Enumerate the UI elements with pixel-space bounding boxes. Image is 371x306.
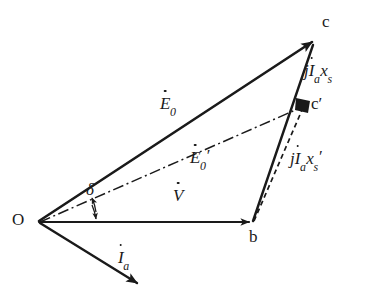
- vector-label-jIaXs: jIaxs: [304, 62, 333, 83]
- point-label-b: b: [249, 228, 258, 245]
- vector-label-V: V: [173, 187, 183, 204]
- phasor-dot-V: V: [173, 187, 183, 204]
- vector-label-Ia: Ia: [118, 249, 130, 270]
- vector-label-jIaXs-prime-xsub: s: [313, 160, 318, 174]
- vector-label-E0-prime: E0′: [190, 149, 210, 170]
- point-label-c: c: [322, 13, 330, 30]
- vector-label-E0-prime-sub: 0: [200, 159, 206, 173]
- vector-label-jIaXs-xsub: s: [327, 72, 332, 86]
- vector-label-Ia-sub: a: [123, 259, 129, 273]
- vector-label-E0-prime-base: E: [190, 148, 200, 167]
- phasor-dot-E0: E: [160, 95, 170, 112]
- point-label-c-prime: c′: [311, 95, 322, 112]
- vector-label-jIaXs-prime-sub: a: [300, 160, 306, 174]
- point-label-O: O: [12, 211, 24, 228]
- vector-label-E0-sub: 0: [170, 105, 176, 119]
- vector-label-V-base: V: [173, 186, 183, 205]
- vector-label-jIaXs-prime: jIaxs′: [290, 150, 322, 171]
- angle-label-delta: δ: [86, 181, 94, 198]
- vector-label-jIaXs-sub: a: [314, 72, 320, 86]
- vector-cprime-arrowhead: [295, 98, 310, 113]
- vector-label-E0: E0: [160, 95, 176, 116]
- vector-label-jIaXs-prime-mark: ′: [319, 147, 323, 166]
- vector-label-E0-base: E: [160, 94, 170, 113]
- phasor-dot-E0-prime: E: [190, 149, 200, 166]
- vector-label-E0-prime-mark: ′: [207, 146, 211, 165]
- phasor-diagram: O b c c′ E0 E0′ V Ia jIaxs jIaxs′ δ: [0, 0, 371, 306]
